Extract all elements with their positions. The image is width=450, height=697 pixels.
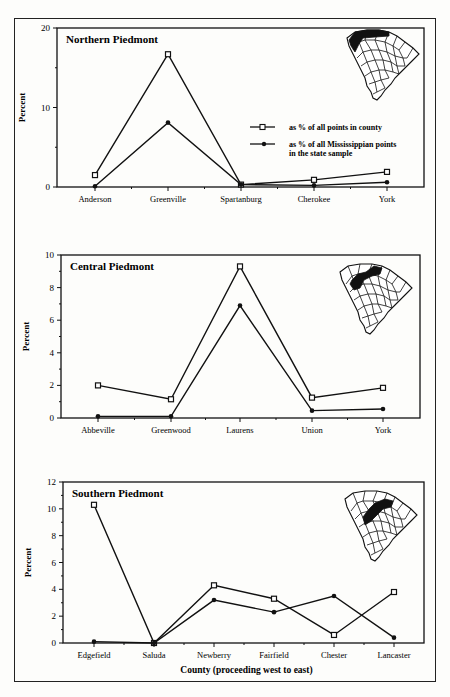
dot-marker-icon [262,142,266,146]
x-category-label: Saluda [142,650,165,660]
y-tick-label: 2 [50,380,55,390]
y-tick-label: 6 [50,315,55,325]
x-category-label: Spartanburg [220,194,262,204]
x-category-label: Edgefield [77,650,111,660]
x-category-label: Newberry [197,650,232,660]
square-marker-icon [310,395,315,400]
square-marker-icon [92,502,97,507]
y-tick-label: 0 [50,413,55,423]
dot-marker-icon [93,184,98,189]
square-marker-icon [312,177,317,182]
y-axis-label: Percent [23,548,33,577]
dot-marker-icon [312,183,317,188]
series-line-1 [95,54,387,184]
x-category-label: Laurens [226,425,253,435]
square-marker-icon [332,632,337,637]
square-marker-icon [392,590,397,595]
square-marker-icon [385,169,390,174]
dot-marker-icon [152,641,157,646]
square-marker-icon [96,383,101,388]
x-category-label: Chester [321,650,347,660]
y-tick-label: 6 [52,558,57,568]
x-axis-title: County (proceeding west to east) [180,665,312,676]
dot-marker-icon [392,635,397,640]
series-line-1 [98,266,383,399]
x-category-label: York [375,425,392,435]
y-axis-label: Percent [21,322,31,351]
dot-marker-icon [310,408,315,413]
square-marker-icon [93,173,98,178]
x-category-label: Anderson [78,194,112,204]
x-category-label: Lancaster [377,650,410,660]
dot-marker-icon [238,303,243,308]
dot-marker-icon [381,407,386,412]
dot-marker-icon [385,180,390,185]
x-category-label: Greenville [150,194,186,204]
dot-marker-icon [169,414,174,419]
chart-title: Northern Piedmont [66,33,158,45]
dot-marker-icon [96,414,101,419]
x-category-label: Fairfield [259,650,289,660]
sc-inset-map-icon [347,30,419,100]
square-marker-icon [381,385,386,390]
dot-marker-icon [166,120,171,125]
dot-marker-icon [332,594,337,599]
legend-entry-2-cont: in the state sample [289,149,353,158]
y-tick-label: 8 [52,531,57,541]
y-tick-label: 0 [52,638,57,648]
dot-marker-icon [92,639,97,644]
x-category-label: Cherokee [298,194,331,204]
chart-3: 024681012EdgefieldSaludaNewberryFairfiel… [23,477,424,676]
y-tick-label: 10 [47,504,57,514]
x-category-label: Abbeville [81,425,115,435]
sc-inset-map-icon [345,491,417,561]
y-tick-label: 20 [41,23,51,33]
legend-entry-2: as % of all Mississippian points [289,140,396,149]
y-axis-label: Percent [17,93,27,122]
y-tick-label: 2 [52,611,57,621]
square-marker-icon [212,583,217,588]
series-line-2 [94,596,394,643]
sc-inset-map-icon [340,264,412,334]
legend: as % of all points in countyas % of all … [250,123,396,158]
y-tick-label: 4 [52,584,57,594]
figure-canvas: 01020AndersonGreenvilleSpartanburgCherok… [0,0,450,697]
y-tick-label: 4 [50,348,55,358]
y-tick-label: 10 [45,250,55,260]
square-marker-icon [166,52,171,57]
square-marker-icon [272,596,277,601]
chart-title: Central Piedmont [70,260,154,272]
square-marker-icon [238,264,243,269]
legend-entry-1: as % of all points in county [289,123,382,132]
series-line-2 [98,306,383,417]
y-tick-label: 0 [46,182,51,192]
dot-marker-icon [272,610,277,615]
square-marker-icon [260,125,265,130]
y-tick-label: 10 [41,103,51,113]
chart-2: 0246810AbbevilleGreenwoodLaurensUnionYor… [21,250,420,435]
x-category-label: York [379,194,396,204]
chart-title: Southern Piedmont [72,487,164,499]
dot-marker-icon [212,598,217,603]
x-category-label: Union [301,425,323,435]
chart-1: 01020AndersonGreenvilleSpartanburgCherok… [17,23,424,204]
square-marker-icon [169,397,174,402]
dot-marker-icon [239,182,244,187]
y-tick-label: 8 [50,283,55,293]
y-tick-label: 12 [47,477,56,487]
x-category-label: Greenwood [151,425,191,435]
series-line-1 [94,505,394,643]
